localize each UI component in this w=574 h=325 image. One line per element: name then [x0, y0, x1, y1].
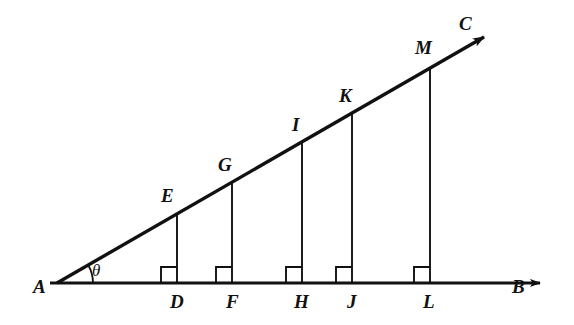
- inclined-ray-AC: [57, 37, 484, 283]
- right-angle-mark-L: [414, 267, 430, 283]
- vertex-label-H: H: [294, 292, 309, 311]
- right-angle-mark-H: [286, 267, 302, 283]
- vertex-label-J: J: [347, 292, 357, 311]
- vertex-label-M: M: [415, 38, 432, 57]
- right-angle-mark-D: [161, 267, 177, 283]
- vertex-label-F: F: [226, 292, 239, 311]
- right-angle-mark-J: [336, 267, 352, 283]
- geometry-figure: A θ B C D F H J L E G I K M: [0, 0, 574, 325]
- vertex-label-A: A: [33, 277, 46, 296]
- vertex-label-K: K: [339, 86, 352, 105]
- right-angle-mark-F: [216, 267, 232, 283]
- angle-label-theta: θ: [92, 262, 100, 279]
- vertex-label-E: E: [161, 186, 174, 205]
- vertex-label-I: I: [292, 115, 299, 134]
- vertex-label-G: G: [218, 155, 232, 174]
- vertex-label-L: L: [423, 292, 435, 311]
- vertex-label-B: B: [512, 277, 525, 296]
- vertex-label-D: D: [170, 292, 184, 311]
- diagram-canvas: [0, 0, 574, 325]
- vertex-label-C: C: [459, 14, 472, 33]
